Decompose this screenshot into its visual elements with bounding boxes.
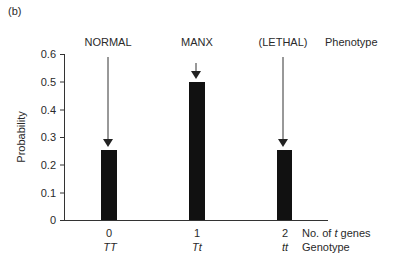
phenotype-label-lethal: (LETHAL) — [259, 36, 308, 48]
bar-1 — [189, 82, 205, 220]
y-tick-label: 0.1 — [41, 187, 56, 199]
label-no-of: No. of — [302, 227, 334, 239]
y-tick-labels: 0 0.1 0.2 0.3 0.4 0.5 0.6 — [41, 48, 56, 226]
phenotype-label-manx: MANX — [181, 36, 213, 48]
y-ticks — [60, 55, 64, 221]
y-tick-label: 0.4 — [41, 104, 56, 116]
panel-label: (b) — [8, 5, 21, 17]
x-row-label-genotype: Genotype — [302, 241, 350, 253]
x-tick-label: 0 — [106, 227, 112, 239]
bar-0 — [101, 150, 117, 220]
arrow-head-icon — [103, 139, 113, 147]
bar-2 — [277, 150, 292, 220]
label-genes: genes — [337, 227, 371, 239]
x-tick-label: 2 — [282, 227, 288, 239]
genotype-label: TT — [103, 241, 118, 253]
genotype-label: Tt — [192, 241, 203, 253]
phenotype-labels: NORMAL MANX (LETHAL) — [84, 36, 307, 48]
y-tick-label: 0.3 — [41, 131, 56, 143]
y-tick-label: 0.2 — [41, 159, 56, 171]
arrow-head-icon — [191, 71, 201, 79]
chart-canvas: (b) 0 0.1 0.2 0.3 0.4 0.5 0.6 Probabilit… — [0, 0, 396, 268]
genotype-label: tt — [282, 241, 289, 253]
y-axis-label: Probability — [15, 111, 27, 163]
bars — [101, 82, 292, 220]
y-tick-label: 0.5 — [41, 76, 56, 88]
arrow-head-icon — [278, 139, 288, 147]
x-tick-labels: 0 1 2 — [106, 227, 288, 239]
phenotype-label-normal: NORMAL — [84, 36, 131, 48]
phenotype-header: Phenotype — [325, 36, 378, 48]
x-row-label-t-genes: No. of t genes — [302, 227, 371, 239]
x-tick-label: 1 — [194, 227, 200, 239]
y-tick-label: 0 — [50, 214, 56, 226]
y-tick-label: 0.6 — [41, 48, 56, 60]
genotype-labels: TT Tt tt — [103, 241, 289, 253]
